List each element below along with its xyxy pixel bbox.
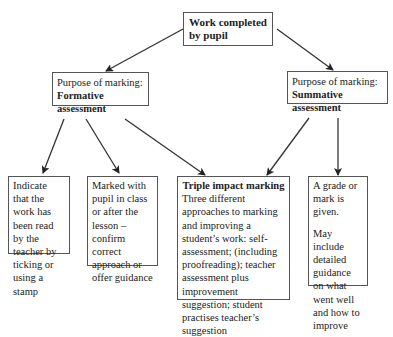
root-line2: by pupil	[189, 29, 267, 42]
formative-line1: Purpose of marking:	[57, 76, 144, 89]
grade-spacer	[313, 219, 363, 227]
triple-title: Triple impact marking	[182, 179, 285, 192]
summative-box: Purpose of marking: Summative assessment	[287, 71, 388, 104]
root-box: Work completed by pupil	[183, 12, 273, 46]
arrow-root-to-summative	[277, 29, 333, 70]
root-line1: Work completed	[189, 16, 267, 29]
formative-line2: Formative assessment	[57, 89, 144, 115]
triple-impact-box: Triple impact marking Three different ap…	[177, 176, 290, 300]
arrow-formative-to-triple	[125, 119, 205, 175]
indicate-box: Indicate that the work has been read by …	[8, 176, 70, 254]
arrow-root-to-formative	[106, 29, 183, 71]
arrow-formative-to-marked	[86, 119, 119, 173]
summative-line2: Summative assessment	[292, 88, 383, 114]
arrow-formative-to-indicate	[43, 119, 64, 173]
summative-line1: Purpose of marking:	[292, 75, 383, 88]
marked-box: Marked with pupil in class or after the …	[87, 176, 158, 266]
formative-box: Purpose of marking: Formative assessment	[52, 72, 149, 106]
grade-box: A grade or mark is given. May include de…	[308, 176, 368, 286]
grade-text2: May include detailed guidance on what we…	[313, 227, 363, 333]
grade-text1: A grade or mark is given.	[313, 179, 363, 219]
triple-text: Three different approaches to marking an…	[182, 192, 285, 337]
arrow-summative-to-triple	[267, 118, 309, 175]
